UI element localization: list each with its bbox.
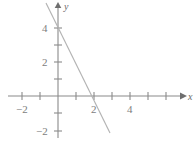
graph-canvas — [0, 0, 195, 143]
y-tick-label-neg2: −2 — [36, 126, 48, 137]
y-tick-label-2: 2 — [42, 57, 48, 68]
y-axis-arrow-icon — [55, 2, 62, 8]
x-tick-label-neg2: −2 — [16, 104, 28, 115]
coordinate-graph-figure: −2 2 4 4 2 −2 x y — [0, 0, 195, 143]
x-tick-label-2: 2 — [91, 104, 97, 115]
x-axis-arrow-icon — [180, 93, 187, 100]
x-axis-label: x — [188, 92, 192, 102]
y-axis-label: y — [64, 2, 68, 12]
y-tick-label-4: 4 — [42, 23, 48, 34]
x-tick-label-4: 4 — [127, 104, 133, 115]
